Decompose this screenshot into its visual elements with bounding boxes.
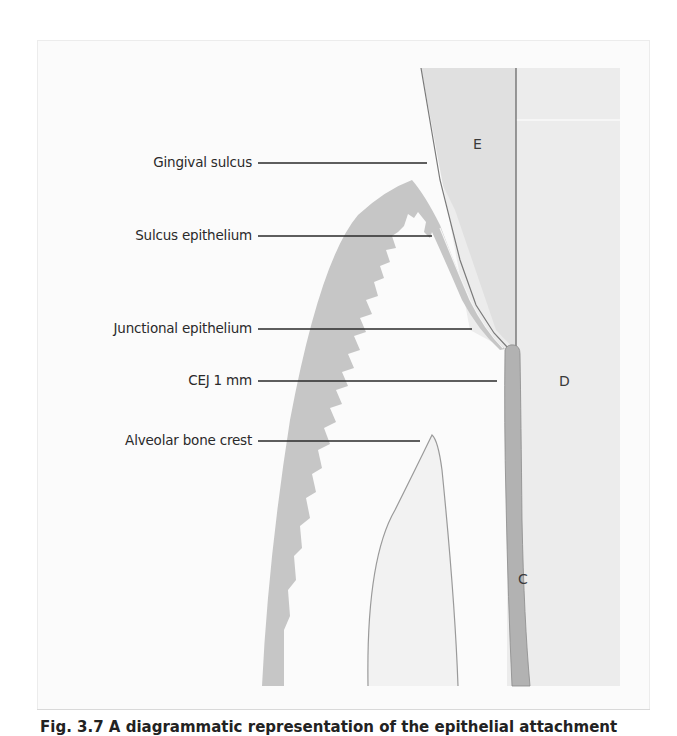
label-gingival-sulcus: Gingival sulcus — [153, 154, 252, 170]
label-enamel: E — [473, 136, 482, 152]
panel-divider — [37, 709, 650, 710]
label-cementum: C — [518, 571, 528, 587]
label-cej: CEJ 1 mm — [188, 372, 252, 388]
label-alveolar-bone-crest: Alveolar bone crest — [125, 432, 252, 448]
label-junctional-epithelium: Junctional epithelium — [114, 320, 252, 336]
label-dentin: D — [559, 373, 570, 389]
figure-caption: Fig. 3.7 A diagrammatic representation o… — [40, 718, 617, 736]
label-sulcus-epithelium: Sulcus epithelium — [135, 227, 252, 243]
